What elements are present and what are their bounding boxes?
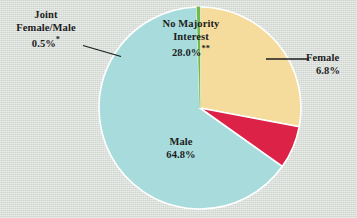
no-majority-footnote-marker: ** [201,44,210,53]
slice-label-joint-female-male: Joint Female/Male 0.5%* [2,8,90,50]
female-label-line-1: Female [306,51,356,64]
joint-label-value: 0.5%* [2,35,90,50]
joint-footnote-marker: * [56,35,60,44]
slice-label-no-majority-interest: No Majority Interest 28.0%** [143,17,239,59]
joint-value-text: 0.5% [32,37,56,48]
no-majority-label-value: 28.0%** [143,44,239,59]
joint-label-line-2: Female/Male [2,21,90,34]
female-label-value: 6.8% [306,64,356,77]
slice-label-female: Female 6.8% [306,51,356,78]
no-majority-label-line-2: Interest [143,30,239,43]
no-majority-value-text: 28.0% [172,46,201,57]
pie-chart-figure: Joint Female/Male 0.5%* No Majority Inte… [0,0,357,218]
joint-label-line-1: Joint [2,8,90,21]
slice-label-male: Male 64.8% [150,135,212,162]
male-label-value: 64.8% [150,148,212,161]
no-majority-label-line-1: No Majority [143,17,239,30]
male-label-line-1: Male [150,135,212,148]
